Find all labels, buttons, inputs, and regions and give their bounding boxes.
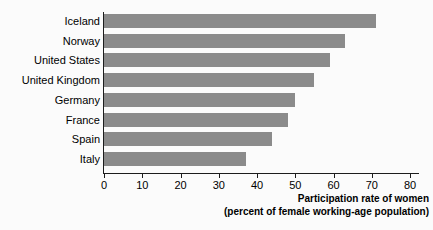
x-tick-mark [104,173,105,178]
x-tick-label: 70 [366,179,378,191]
bar-row [104,132,272,146]
category-label: Germany [2,93,100,107]
x-tick-mark [372,173,373,178]
x-tick-label: 0 [101,179,107,191]
category-label: Italy [2,152,100,166]
category-label: United States [2,53,100,67]
category-label: United Kingdom [2,73,100,87]
bar-row [104,34,345,48]
bar-row [104,152,246,166]
x-tick-label: 60 [327,179,339,191]
x-tick-label: 20 [174,179,186,191]
x-tick-mark [142,173,143,178]
bar [104,53,330,67]
bar-row [104,53,330,67]
x-tick-mark [410,173,411,178]
bar [104,152,246,166]
x-tick-mark [219,173,220,178]
y-axis-category-labels: Iceland Norway United States United King… [0,14,100,172]
bar-row [104,93,295,107]
bar-chart: Iceland Norway United States United King… [0,0,433,230]
x-tick-label: 50 [289,179,301,191]
x-axis-title: Participation rate of women (percent of … [0,192,429,218]
x-tick-mark [334,173,335,178]
bar-row [104,14,376,28]
x-tick-mark [181,173,182,178]
bar [104,132,272,146]
x-tick-label: 80 [404,179,416,191]
plot-area [104,14,410,172]
bar-row [104,73,314,87]
bar [104,113,288,127]
x-tick-mark [295,173,296,178]
x-tick-label: 40 [251,179,263,191]
bar [104,14,376,28]
category-label: Spain [2,132,100,146]
category-label: France [2,113,100,127]
x-tick-label: 10 [136,179,148,191]
bar [104,73,314,87]
category-label: Norway [2,34,100,48]
x-axis-title-line2: (percent of female working-age populatio… [0,205,429,218]
bar-row [104,113,288,127]
bar [104,93,295,107]
category-label: Iceland [2,14,100,28]
x-tick-mark [257,173,258,178]
x-axis-title-line1: Participation rate of women [298,193,429,204]
bar [104,34,345,48]
x-tick-label: 30 [213,179,225,191]
